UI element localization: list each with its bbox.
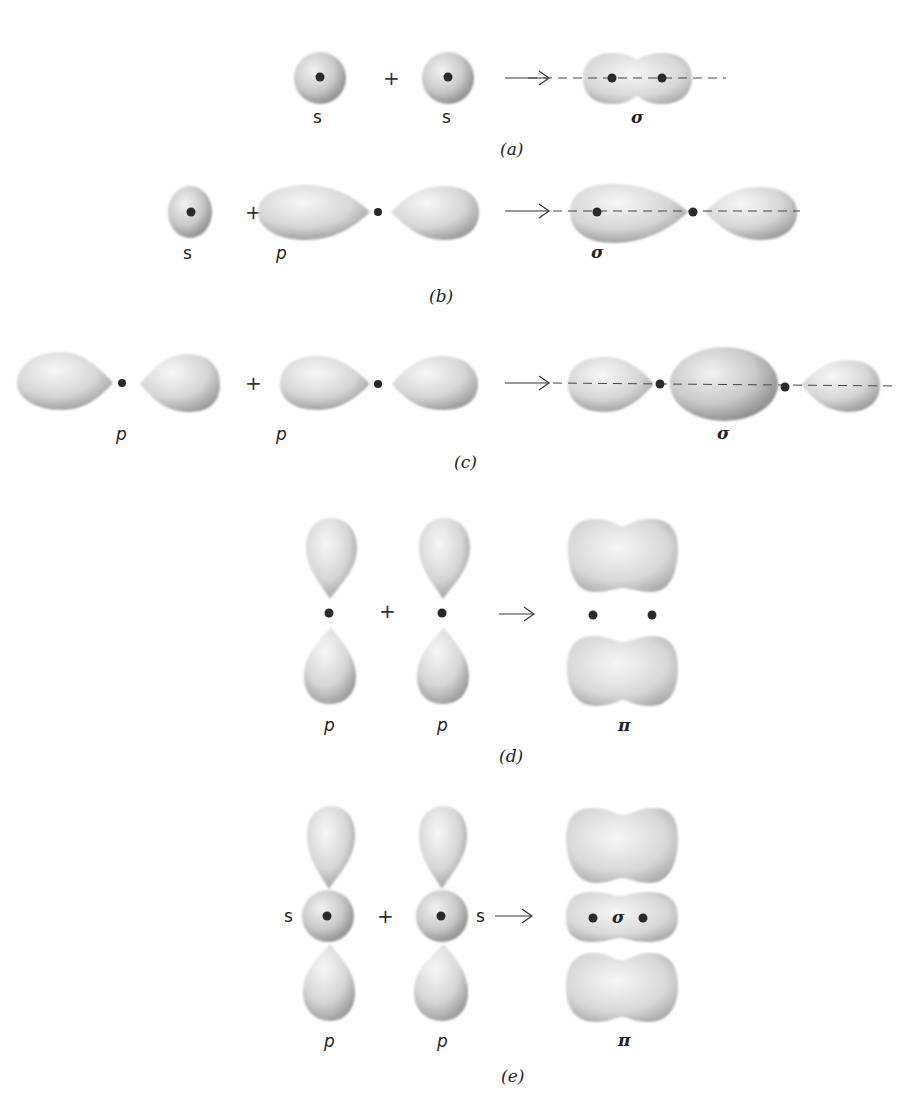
panel-d: p + p π (d) (304, 518, 678, 766)
label-pi: π (617, 715, 631, 735)
nucleus-icon (187, 208, 196, 217)
arrow-icon (499, 607, 534, 621)
p-orbital-c1 (17, 352, 220, 412)
nucleus-icon (118, 379, 126, 387)
nucleus-icon (444, 73, 453, 82)
caption-e: (e) (501, 1066, 524, 1086)
label-s: s (183, 243, 192, 263)
p-orbital-d2 (417, 518, 470, 704)
panel-b: s + p σ (b) (168, 184, 800, 306)
nucleus-icon (323, 912, 332, 921)
s-orbital-a2 (422, 52, 474, 104)
nucleus-icon (374, 208, 382, 216)
nucleus-icon (658, 74, 667, 83)
panel-a: s + s σ (a) (294, 52, 726, 159)
label-p: p (115, 424, 127, 444)
label-s: s (284, 906, 293, 926)
label-p: p (275, 243, 287, 263)
nucleus-icon (781, 383, 790, 392)
label-sigma: σ (717, 423, 730, 443)
label-sigma: σ (591, 242, 604, 262)
sigma-orbital-a (528, 53, 726, 104)
label-p: p (275, 424, 287, 444)
plus-operator: + (379, 599, 396, 623)
sigma-orbital-c (553, 347, 896, 421)
caption-d: (d) (499, 746, 523, 766)
nucleus-icon (656, 380, 665, 389)
label-sigma: σ (612, 907, 625, 927)
nucleus-icon (648, 611, 657, 620)
label-s: s (442, 107, 451, 127)
plus-operator: + (377, 904, 394, 928)
nucleus-icon (689, 208, 698, 217)
nucleus-icon (639, 914, 648, 923)
arrow-icon (495, 909, 532, 923)
panel-e: s p + s p σ π (e) (284, 806, 678, 1086)
label-s: s (313, 107, 322, 127)
nucleus-icon (437, 912, 446, 921)
sigma-pi-orbital-e: σ (566, 808, 678, 1022)
nucleus-icon (374, 380, 382, 388)
p-orbital-c2 (280, 356, 478, 410)
arrow-icon (505, 71, 549, 85)
sigma-orbital-b (553, 184, 800, 243)
orbital-overlap-diagram: s + s σ (a) s + p (0, 0, 923, 1097)
s-orbital-b (168, 186, 212, 238)
label-s: s (476, 906, 485, 926)
caption-c: (c) (454, 452, 477, 472)
caption-a: (a) (500, 139, 523, 159)
label-p: p (436, 715, 448, 735)
pi-orbital-d (567, 519, 678, 706)
arrow-icon (505, 376, 549, 390)
panel-c: p + p σ (c) (17, 347, 896, 472)
nucleus-icon (593, 208, 602, 217)
label-p: p (323, 715, 335, 735)
arrow-icon (505, 204, 549, 218)
caption-b: (b) (429, 286, 453, 306)
s-orbital-a1 (294, 52, 346, 104)
p-orbital-d1 (304, 518, 357, 704)
nucleus-icon (589, 611, 598, 620)
label-p: p (436, 1031, 448, 1051)
plus-operator: + (245, 371, 262, 395)
nucleus-icon (589, 914, 598, 923)
sp-orbital-e1 (302, 806, 355, 1021)
sp-orbital-e2 (414, 806, 468, 1021)
nucleus-icon (316, 73, 325, 82)
label-pi: π (617, 1030, 631, 1050)
p-orbital-b (258, 185, 479, 240)
label-p: p (323, 1031, 335, 1051)
plus-operator: + (383, 66, 400, 90)
nucleus-icon (608, 74, 617, 83)
nucleus-icon (438, 609, 447, 618)
nucleus-icon (325, 609, 334, 618)
label-sigma: σ (631, 107, 644, 127)
